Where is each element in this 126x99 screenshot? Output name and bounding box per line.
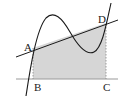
- point-label-a: A: [24, 41, 32, 53]
- diagram-canvas: A B C D: [0, 0, 126, 99]
- point-label-d: D: [98, 13, 106, 25]
- point-label-c: C: [103, 81, 110, 93]
- point-label-b: B: [34, 81, 41, 93]
